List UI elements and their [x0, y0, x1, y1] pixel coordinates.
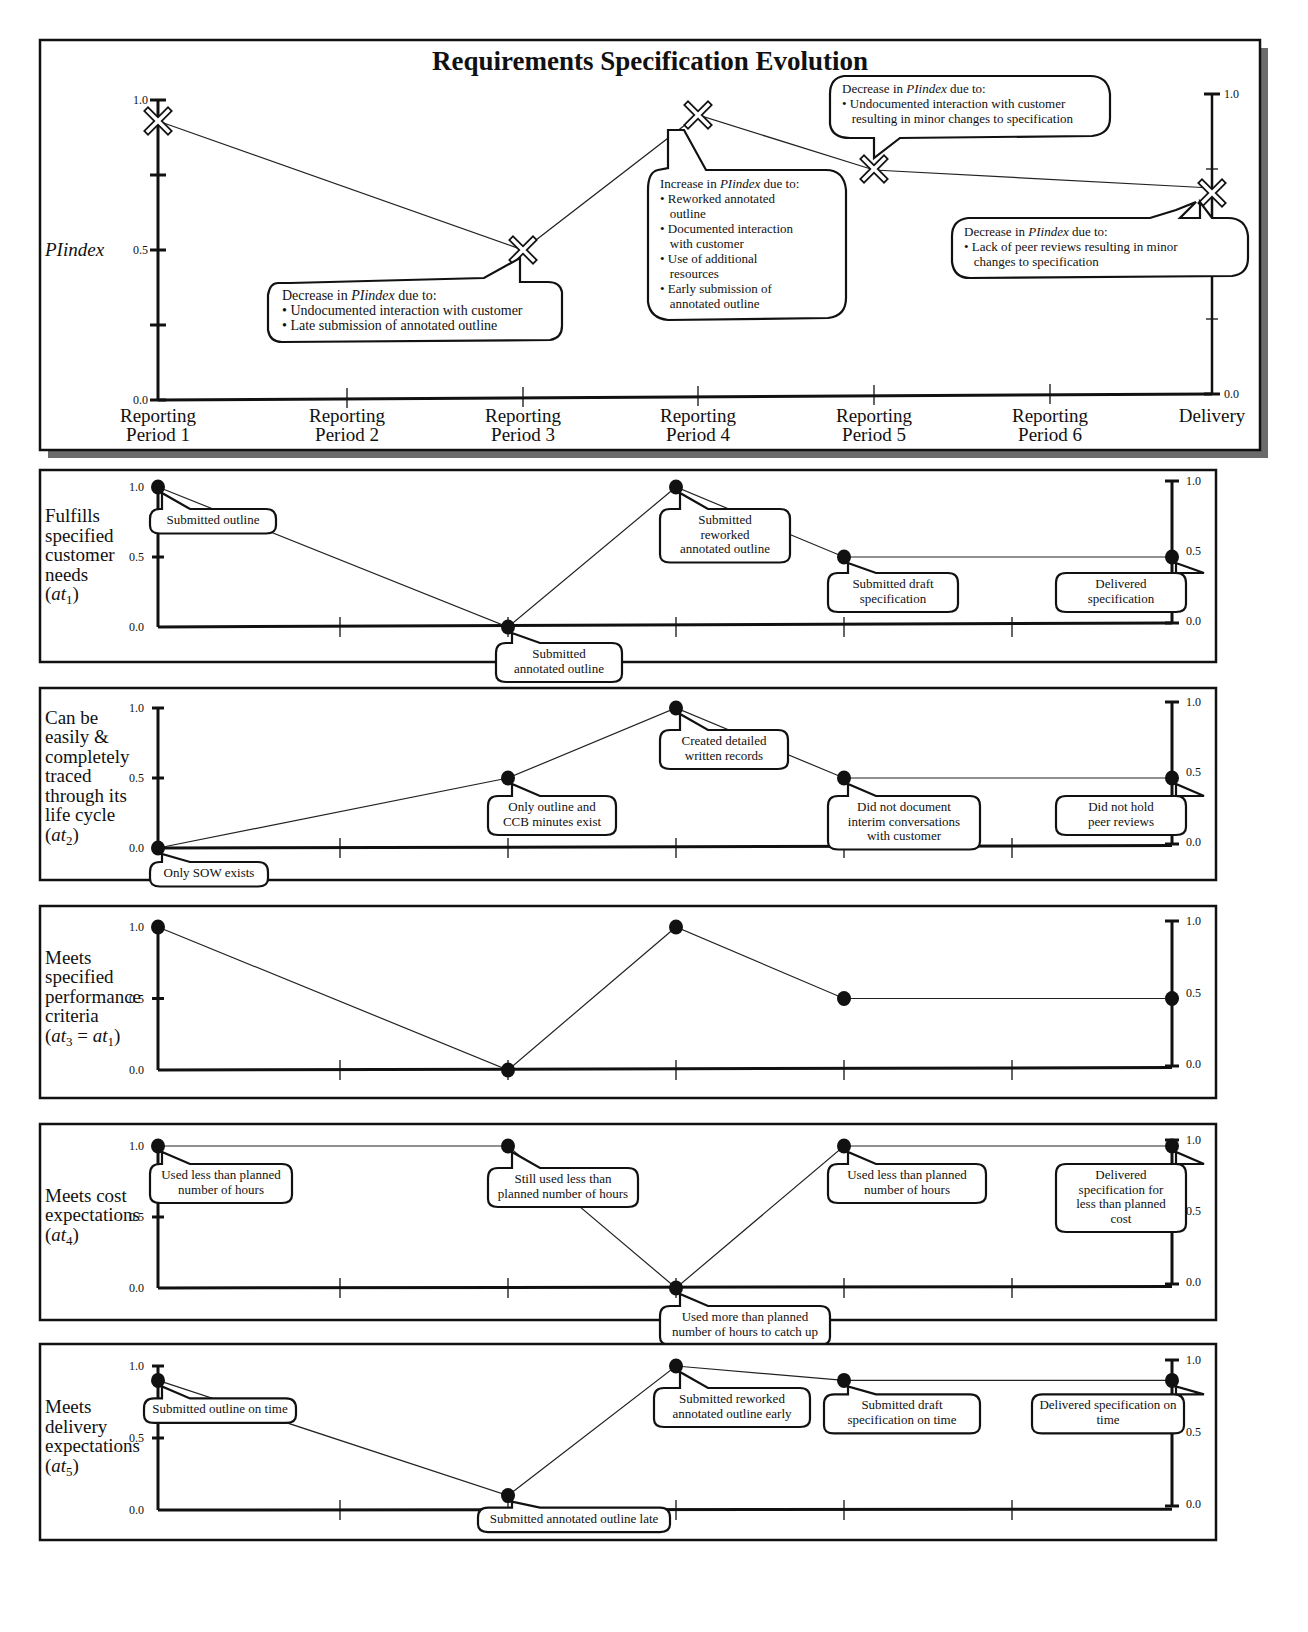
- data-point-dot-icon: [669, 920, 683, 935]
- y-tick-label: 0.5: [133, 243, 148, 257]
- svg-text:through its: through its: [45, 785, 127, 806]
- callout-line: • Undocumented interaction with customer: [842, 96, 1066, 111]
- data-point-dot-icon: [837, 771, 851, 786]
- data-point-dot-icon: [1165, 550, 1179, 565]
- callout-text: CCB minutes exist: [503, 814, 602, 829]
- svg-text:expectations: expectations: [45, 1204, 140, 1225]
- y-tick-label: 1.0: [129, 920, 144, 934]
- callout-text: Submitted reworked: [679, 1391, 785, 1406]
- callout-text: annotated outline early: [672, 1406, 792, 1421]
- data-point-dot-icon: [837, 1139, 851, 1154]
- data-point-dot-icon: [151, 1373, 165, 1388]
- svg-text:Decrease in PIindex due to:: Decrease in PIindex due to:: [964, 224, 1108, 239]
- requirements-evolution-figure: Requirements Specification Evolution 1.0…: [0, 0, 1308, 1632]
- callout-text: specification for: [1079, 1182, 1164, 1197]
- callout-line: • Lack of peer reviews resulting in mino…: [964, 239, 1178, 254]
- data-point-dot-icon: [151, 480, 165, 495]
- data-point-dot-icon: [1165, 1373, 1179, 1388]
- x-axis-label: Reporting: [485, 405, 561, 426]
- svg-text:(at1): (at1): [45, 583, 79, 607]
- callout-line: with customer: [660, 236, 744, 251]
- data-point-dot-icon: [1165, 1139, 1179, 1154]
- svg-text:Increase in PIindex due to:: Increase in PIindex due to:: [660, 176, 799, 191]
- callout-line: changes to specification: [964, 254, 1099, 269]
- callout-text: Submitted: [532, 646, 586, 661]
- callout-text: specification: [860, 591, 927, 606]
- y-tick-label: 1.0: [129, 701, 144, 715]
- data-point-dot-icon: [501, 1488, 515, 1503]
- x-axis-label: Period 1: [126, 424, 190, 445]
- y-tick-label: 1.0: [1186, 474, 1201, 488]
- callout-text: Used more than planned: [682, 1309, 809, 1324]
- callout-text: number of hours: [178, 1182, 264, 1197]
- callout-line: annotated outline: [660, 296, 760, 311]
- y-tick-label: 1.0: [129, 1139, 144, 1153]
- x-axis-label: Period 5: [842, 424, 906, 445]
- y-tick-label: 1.0: [1186, 1133, 1201, 1147]
- y-tick-label: 1.0: [1186, 695, 1201, 709]
- svg-text:delivery: delivery: [45, 1416, 108, 1437]
- svg-text:customer: customer: [45, 544, 115, 565]
- y-tick-label: 0.5: [129, 550, 144, 564]
- x-axis-label: Period 2: [315, 424, 379, 445]
- y-tick-label: 0.0: [129, 841, 144, 855]
- data-point-dot-icon: [669, 1359, 683, 1374]
- callout-text: reworked: [700, 527, 750, 542]
- svg-text:life cycle: life cycle: [45, 804, 115, 825]
- callout-line: • Early submission of: [660, 281, 772, 296]
- point-callout: Submitted draftspecification on time: [824, 1386, 980, 1433]
- y-tick-label: 1.0: [1186, 914, 1201, 928]
- y-tick-label: 1.0: [1186, 1353, 1201, 1367]
- callout-line: • Late submission of annotated outline: [282, 318, 497, 333]
- y-tick-label: 0.5: [1186, 1204, 1201, 1218]
- callout-text: Submitted draft: [861, 1397, 943, 1412]
- x-axis-label: Reporting: [1012, 405, 1088, 426]
- y-tick-label: 0.0: [129, 1063, 144, 1077]
- svg-text:criteria: criteria: [45, 1005, 99, 1026]
- y-tick-label: 0.5: [1186, 544, 1201, 558]
- callout-line: • Reworked annotated: [660, 191, 776, 206]
- y-tick-label: 0.0: [1186, 1275, 1201, 1289]
- callout-text: annotated outline: [514, 661, 604, 676]
- y-tick-label: 0.0: [1186, 614, 1201, 628]
- svg-text:Meets cost: Meets cost: [45, 1185, 128, 1206]
- x-axis-label: Reporting: [660, 405, 736, 426]
- y-tick-label: 0.5: [129, 1210, 144, 1224]
- callout-text: planned number of hours: [498, 1186, 628, 1201]
- callout-text: interim conversations: [848, 814, 960, 829]
- x-axis-label: Reporting: [836, 405, 912, 426]
- data-point-dot-icon: [837, 550, 851, 565]
- attribute-panels: Fulfillsspecifiedcustomerneeds(at1)1.01.…: [40, 470, 1216, 1540]
- callout-text: Did not document: [857, 799, 951, 814]
- svg-text:Meets: Meets: [45, 947, 91, 968]
- callout-line: • Undocumented interaction with customer: [282, 303, 523, 318]
- attribute-panel: Meetsdeliveryexpectations(at5)1.01.00.50…: [40, 1344, 1216, 1540]
- y-tick-label: 0.5: [129, 771, 144, 785]
- callout-text: Still used less than: [514, 1171, 612, 1186]
- svg-text:completely: completely: [45, 746, 130, 767]
- svg-text:traced: traced: [45, 765, 92, 786]
- attribute-panel: Fulfillsspecifiedcustomerneeds(at1)1.01.…: [40, 470, 1216, 682]
- svg-text:easily &: easily &: [45, 726, 109, 747]
- callout-line: resulting in minor changes to specificat…: [842, 111, 1074, 126]
- svg-text:Decrease in PIindex due to:: Decrease in PIindex due to:: [842, 81, 986, 96]
- point-callout: Delivered specification ontime: [1032, 1386, 1204, 1433]
- callout-text: Submitted: [698, 512, 752, 527]
- callout-text: Submitted draft: [852, 576, 934, 591]
- svg-text:(at5): (at5): [45, 1455, 79, 1479]
- data-point-dot-icon: [669, 1281, 683, 1296]
- y-tick-label: 0.0: [129, 620, 144, 634]
- callout-text: less than planned: [1076, 1196, 1166, 1211]
- callout-text: peer reviews: [1088, 814, 1154, 829]
- y-tick-label: 0.0: [1224, 387, 1239, 401]
- y-tick-label: 0.5: [1186, 986, 1201, 1000]
- callout-text: Submitted outline: [167, 512, 260, 527]
- y-tick-label: 0.5: [1186, 765, 1201, 779]
- y-tick-label: 1.0: [129, 1359, 144, 1373]
- svg-text:(at2): (at2): [45, 824, 79, 848]
- callout-text: Used less than planned: [847, 1167, 967, 1182]
- data-point-dot-icon: [1165, 991, 1179, 1006]
- y-tick-label: 0.0: [129, 1503, 144, 1517]
- data-point-dot-icon: [151, 1139, 165, 1154]
- x-axis-label: Reporting: [309, 405, 385, 426]
